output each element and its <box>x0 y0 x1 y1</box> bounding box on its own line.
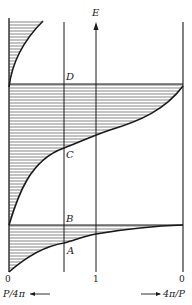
tick-right-zero: 0 <box>179 274 185 284</box>
bottom-axis-right-label: 4π/P <box>162 288 185 299</box>
point-label-c: C <box>66 149 74 160</box>
bottom-axis-left-label: P/4π <box>2 288 26 299</box>
energy-axis-label: E <box>91 7 100 18</box>
allowed-band-top-hatching <box>9 22 45 88</box>
tick-left-zero: 0 <box>5 274 11 284</box>
point-label-a: A <box>66 245 74 256</box>
tick-middle-one: 1 <box>93 274 99 284</box>
left-arrow-icon <box>30 292 35 296</box>
point-label-d: D <box>65 71 74 82</box>
point-label-b: B <box>65 213 73 224</box>
right-arrow-icon <box>156 292 161 296</box>
band-diagram: E D C B A 0 1 0 P/4π 4π/P <box>0 0 192 305</box>
energy-axis-arrow-icon <box>94 22 99 30</box>
